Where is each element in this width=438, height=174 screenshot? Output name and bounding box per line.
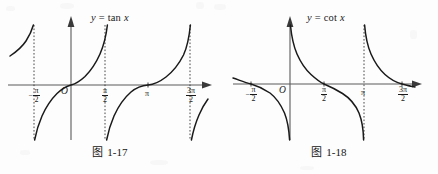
origin-label: O: [61, 86, 68, 96]
figure-caption-1-18: 图 1-18: [219, 143, 438, 159]
y-axis: [68, 16, 75, 140]
fraction-pi-over-2: π2: [102, 87, 108, 105]
caption-number: 1-17: [107, 146, 127, 158]
tan-branch-partial-left: [10, 25, 33, 56]
x-tick-label-neg-half-pi: −π2: [23, 87, 45, 105]
x-tick-label-pi: π: [361, 88, 365, 97]
function-label-cotangent: y = cot x: [307, 12, 345, 23]
fraction-pi-over-2: π2: [33, 87, 39, 105]
fraction-denominator: 2: [321, 95, 327, 103]
caption-prefix: 图: [311, 146, 323, 159]
x-tick-label-three-half-pi: 3π2: [393, 86, 413, 104]
fraction-pi-over-2: π2: [321, 86, 327, 104]
tan-branch-partial-right: [191, 99, 208, 140]
fraction-denominator: 2: [250, 95, 256, 103]
fraction-denominator: 2: [398, 95, 408, 103]
figure-tangent: y = tan x O −π2 π2 π 3π2 图 1-17: [0, 0, 219, 174]
fraction-3pi-over-2: 3π2: [398, 86, 408, 104]
x-tick-label-half-pi: π2: [316, 86, 332, 104]
cot-branch-right: [365, 25, 415, 87]
figure-caption-1-17: 图 1-17: [0, 143, 219, 159]
figure-page: y = tan x O −π2 π2 π 3π2 图 1-17: [0, 0, 438, 174]
fraction-denominator: 2: [186, 96, 196, 104]
caption-prefix: 图: [92, 146, 104, 159]
function-label-tangent: y = tan x: [91, 12, 129, 23]
x-tick-label-pi: π: [145, 89, 149, 98]
caption-number: 1-18: [326, 146, 346, 158]
fraction-3pi-over-2: 3π2: [186, 87, 196, 105]
tan-curves: [10, 25, 208, 140]
fraction-denominator: 2: [33, 96, 39, 104]
x-tick-label-three-half-pi: 3π2: [181, 87, 201, 105]
figure-cotangent: y = cot x O −π2 π2 π 3π2 图 1-18: [219, 0, 438, 174]
fraction-denominator: 2: [102, 96, 108, 104]
origin-label: O: [279, 85, 286, 95]
cot-branch-middle: [290, 25, 363, 140]
x-tick-label-half-pi: π2: [97, 87, 113, 105]
x-tick-label-neg-half-pi: −π2: [240, 86, 262, 104]
fraction-pi-over-2: π2: [250, 86, 256, 104]
